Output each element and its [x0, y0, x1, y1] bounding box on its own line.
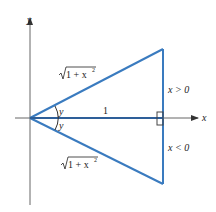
- x-axis-label: x: [201, 112, 207, 123]
- upper-condition-label: x > 0: [167, 84, 189, 95]
- adjacent-side-label: 1: [103, 105, 108, 116]
- svg-text:2: 2: [92, 67, 95, 73]
- lower-hypotenuse-line: [30, 118, 163, 184]
- upper-hypotenuse-label: 1 + x 2: [59, 67, 96, 80]
- y-axis-label: y: [26, 14, 32, 25]
- svg-text:2: 2: [94, 157, 97, 163]
- lower-condition-label: x < 0: [167, 142, 189, 153]
- lower-angle-label: y: [58, 120, 64, 131]
- upper-hypotenuse-line: [30, 49, 163, 118]
- triangle-diagram: y x 1 + x 2 1 + x 2 y y 1 x > 0 x < 0: [0, 0, 216, 212]
- lower-hypotenuse-label: 1 + x 2: [61, 157, 98, 170]
- svg-text:1 + x: 1 + x: [66, 69, 87, 80]
- upper-angle-label: y: [58, 106, 64, 117]
- svg-text:1 + x: 1 + x: [68, 159, 89, 170]
